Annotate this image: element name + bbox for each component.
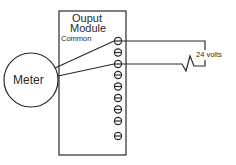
terminal-screw-icon [114,60,121,67]
wire-common-to-supply [122,41,205,50]
module-title-line2: Module [70,23,106,34]
terminal-screw-icon [114,117,121,124]
terminal-screw-icon [114,83,121,90]
terminal-screw-icon [114,71,121,78]
terminal-strip [114,37,121,139]
terminal-screw-icon [114,37,121,44]
wire-meter-to-output [58,64,114,76]
terminal-screw-icon [114,49,121,56]
wire-output-to-supply [122,56,205,71]
terminal-screw-icon [114,94,121,101]
terminal-screw-icon [114,132,121,139]
wire-meter-to-common [55,41,114,68]
meter-label: Meter [13,74,44,86]
supply-voltage-label: 24 volts [195,51,223,59]
common-label: Common [61,35,91,43]
terminal-screw-icon [114,106,121,113]
